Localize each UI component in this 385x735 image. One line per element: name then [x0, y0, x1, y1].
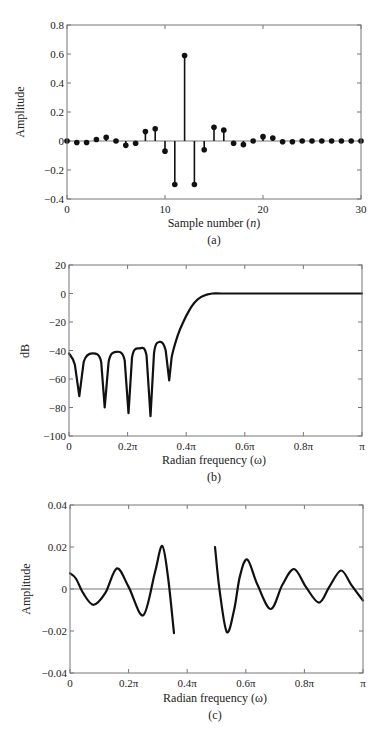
stem-marker	[182, 53, 188, 59]
panel-c-caption: (c)	[208, 708, 221, 722]
panel-b-ticks: −100−80−60−40−2002000.2π0.4π0.6π0.8ππ	[43, 259, 365, 452]
stem-marker	[280, 139, 286, 145]
stem-marker	[319, 138, 325, 144]
stem-marker	[221, 127, 227, 133]
panel-a-frame	[67, 25, 361, 199]
stem-marker	[250, 138, 256, 144]
panel-c-error-plot: −0.04−0.0200.020.0400.2π0.4π0.6π0.8ππ Am…	[19, 499, 366, 722]
stem-marker	[339, 138, 345, 144]
panel-b-magnitude-plot: −100−80−60−40−2002000.2π0.4π0.6π0.8ππ dB…	[18, 259, 365, 484]
stem-marker	[84, 140, 90, 146]
xtick-label: 0.8π	[295, 677, 315, 689]
panel-a-caption: (a)	[207, 233, 220, 247]
stem-marker	[201, 147, 207, 153]
stem-marker	[172, 182, 178, 188]
panel-b-xlabel: Radian frequency (ω)	[162, 453, 266, 467]
stem-marker	[113, 138, 119, 144]
xtick-label: 0.6π	[236, 677, 256, 689]
stem-marker	[329, 138, 335, 144]
xtick-label: 0	[67, 677, 73, 689]
xtick-label: 0.2π	[118, 440, 138, 452]
ytick-label: 0.6	[50, 48, 64, 60]
xtick-label: 0.4π	[177, 440, 197, 452]
stem-marker	[123, 143, 129, 149]
stem-marker	[241, 142, 247, 148]
ytick-label: −0.4	[44, 193, 64, 205]
stem-marker	[133, 140, 139, 146]
xtick-label: 0.4π	[178, 677, 198, 689]
xtick-label: 0.6π	[235, 440, 255, 452]
stem-marker	[94, 137, 100, 143]
ytick-label: 0.02	[48, 541, 67, 553]
panel-c-ylabel: Amplitude	[19, 563, 33, 614]
stem-marker	[103, 135, 109, 141]
data-curve	[215, 547, 363, 632]
ytick-label: 0.04	[48, 499, 68, 511]
panel-b-curve	[69, 293, 362, 416]
stem-marker	[348, 138, 354, 144]
ytick-label: 0	[59, 135, 65, 147]
panel-a-ticks: −0.4−0.200.20.40.60.80102030	[44, 19, 367, 215]
xtick-label: 10	[160, 203, 172, 215]
xtick-label: 0.2π	[119, 677, 139, 689]
ytick-label: 0.2	[50, 106, 64, 118]
panel-c-ticks: −0.04−0.0200.020.0400.2π0.4π0.6π0.8ππ	[42, 499, 367, 689]
panel-b-ylabel: dB	[18, 344, 32, 358]
data-curve	[70, 546, 174, 633]
xtick-label: 30	[356, 203, 368, 215]
xtick-label: π	[359, 440, 365, 452]
ytick-label: 0.8	[50, 19, 64, 31]
stem-marker	[270, 135, 276, 141]
panel-a-ylabel: Amplitude	[13, 86, 27, 137]
stem-marker	[192, 182, 198, 188]
xtick-label: 0	[64, 203, 70, 215]
stem-marker	[299, 138, 305, 144]
panel-c-xlabel: Radian frequency (ω)	[163, 691, 267, 705]
ytick-label: 0	[62, 583, 68, 595]
ytick-label: −40	[49, 345, 67, 357]
xtick-label: 0	[66, 440, 72, 452]
stem-marker	[260, 134, 266, 140]
stem-marker	[231, 140, 237, 146]
ytick-label: −20	[49, 316, 67, 328]
stem-marker	[290, 139, 296, 145]
panel-b-frame	[69, 265, 362, 436]
panel-a-stems	[64, 53, 364, 188]
panel-c-curve	[70, 546, 363, 633]
ytick-label: −0.2	[44, 164, 64, 176]
stem-marker	[74, 140, 80, 146]
panel-a-xlabel: Sample number (n)	[168, 216, 261, 230]
stem-marker	[211, 124, 217, 130]
ytick-label: −100	[43, 430, 66, 442]
panel-a-stem-plot: −0.4−0.200.20.40.60.80102030 Amplitude S…	[13, 19, 367, 247]
stem-marker	[152, 126, 158, 132]
ytick-label: −80	[49, 402, 67, 414]
figure: −0.4−0.200.20.40.60.80102030 Amplitude S…	[0, 0, 385, 735]
panel-b-caption: (b)	[207, 470, 221, 484]
ytick-label: 0	[61, 288, 67, 300]
ytick-label: −60	[49, 373, 67, 385]
data-curve	[69, 293, 362, 416]
ytick-label: 20	[55, 259, 67, 271]
xtick-label: π	[360, 677, 366, 689]
ytick-label: −0.04	[42, 667, 68, 679]
stem-marker	[143, 129, 149, 135]
stem-marker	[162, 148, 168, 154]
xtick-label: 0.8π	[294, 440, 314, 452]
xtick-label: 20	[258, 203, 270, 215]
ytick-label: −0.02	[42, 625, 67, 637]
stem-marker	[309, 138, 315, 144]
ytick-label: 0.4	[50, 77, 64, 89]
